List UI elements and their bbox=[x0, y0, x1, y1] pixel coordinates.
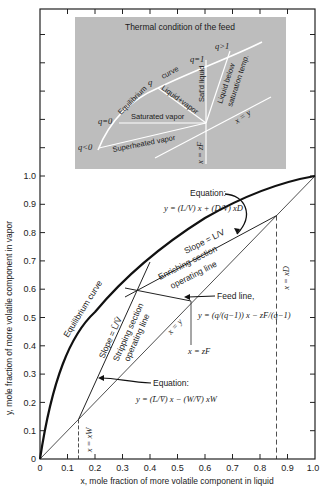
svg-text:0.8: 0.8 bbox=[23, 228, 36, 238]
svg-text:0.9: 0.9 bbox=[23, 199, 36, 209]
svg-text:0.7: 0.7 bbox=[23, 256, 36, 266]
inset-x-eq-zf: x = zF bbox=[195, 141, 205, 165]
inset-q-gt-1: q>1 bbox=[215, 41, 229, 51]
svg-text:0.2: 0.2 bbox=[23, 398, 36, 408]
arrow-head-icon bbox=[98, 375, 104, 381]
x-tick-labels: 0 0.1 0.2 0.3 0.4 0.5 0.6 0.7 0.8 0.9 1.… bbox=[37, 463, 319, 473]
feed-arrow bbox=[188, 296, 215, 297]
svg-text:1.0: 1.0 bbox=[307, 463, 320, 473]
y-axis-label: y, mole fraction of more volatile compon… bbox=[4, 221, 14, 415]
stripping-eq: y = (L̄/V̄) x − (W/V̄) xW bbox=[135, 394, 218, 404]
x-axis-label: x, mole fraction of more volatile compon… bbox=[80, 476, 274, 486]
inset-saturated-vapor: Saturated vapor bbox=[131, 112, 185, 121]
svg-text:0: 0 bbox=[37, 463, 42, 473]
inset-q-eq-1: q=1 bbox=[190, 54, 204, 64]
svg-text:0.1: 0.1 bbox=[23, 426, 36, 436]
feed-line-label: Feed line, bbox=[217, 291, 254, 301]
x-eq-xd-label: x = xD bbox=[281, 265, 291, 291]
x-eq-xw-label: x = xW bbox=[84, 427, 94, 454]
arrow-head-icon bbox=[184, 294, 190, 300]
inset-q-eq-0: q=0 bbox=[98, 116, 113, 126]
svg-text:0.6: 0.6 bbox=[23, 284, 36, 294]
x-eq-zf-label: x = zF bbox=[187, 346, 211, 356]
svg-text:0: 0 bbox=[31, 454, 36, 464]
enriching-eq-label: Equation: bbox=[190, 188, 226, 198]
mccabe-thiele-diagram: 0 0.1 0.2 0.3 0.4 0.5 0.6 0.7 0.8 0.9 1.… bbox=[0, 0, 323, 489]
enriching-eq-arrow bbox=[225, 194, 246, 234]
svg-text:0.4: 0.4 bbox=[23, 341, 36, 351]
svg-text:0.2: 0.2 bbox=[89, 463, 102, 473]
svg-text:0.3: 0.3 bbox=[116, 463, 129, 473]
inset-satd-liquid: Sat'd liquid bbox=[197, 66, 206, 102]
svg-text:0.3: 0.3 bbox=[23, 369, 36, 379]
enriching-eq: y = (L/V) x + (D/V) xD bbox=[163, 203, 244, 213]
svg-text:0.5: 0.5 bbox=[171, 463, 184, 473]
inset-q-lt-0: q<0 bbox=[78, 142, 93, 152]
svg-text:1.0: 1.0 bbox=[23, 171, 36, 181]
svg-text:0.1: 0.1 bbox=[61, 463, 74, 473]
svg-text:0.9: 0.9 bbox=[281, 463, 294, 473]
stripping-eq-arrow bbox=[102, 378, 151, 383]
feed-eq: y = (q/(q−1)) x − zF/(q−1) bbox=[197, 310, 291, 320]
svg-text:0.5: 0.5 bbox=[23, 313, 36, 323]
svg-text:0.7: 0.7 bbox=[226, 463, 239, 473]
thermal-condition-inset: Thermal condition of the feed q>1 q=1 q … bbox=[75, 17, 286, 169]
stripping-eq-label: Equation: bbox=[153, 378, 189, 388]
svg-text:0.8: 0.8 bbox=[254, 463, 267, 473]
svg-text:0.4: 0.4 bbox=[144, 463, 157, 473]
y-tick-labels: 0 0.1 0.2 0.3 0.4 0.5 0.6 0.7 0.8 0.9 1.… bbox=[23, 171, 36, 464]
x-eq-y-label: x = y bbox=[164, 316, 184, 337]
svg-text:0.6: 0.6 bbox=[199, 463, 212, 473]
inset-title: Thermal condition of the feed bbox=[125, 22, 235, 32]
